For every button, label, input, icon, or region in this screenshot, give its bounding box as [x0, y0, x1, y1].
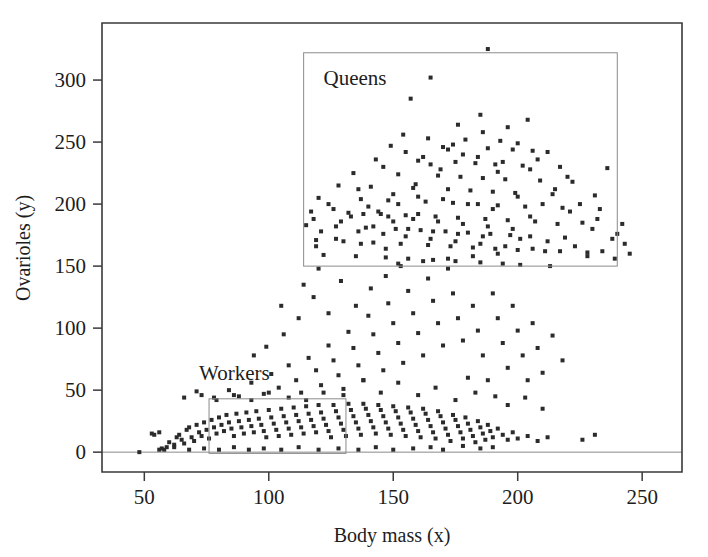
data-point [461, 339, 465, 343]
data-point [456, 316, 460, 320]
data-point [391, 404, 395, 408]
data-point [386, 301, 390, 305]
data-point [511, 227, 515, 231]
data-point [356, 427, 360, 431]
data-point [476, 329, 480, 333]
data-point [503, 244, 507, 248]
x-tick-label: 200 [502, 485, 534, 509]
data-point [506, 125, 510, 129]
data-point [506, 403, 510, 407]
data-point [526, 378, 530, 382]
data-point [516, 195, 520, 199]
data-point [406, 406, 410, 410]
data-point [426, 418, 430, 422]
data-point [404, 150, 408, 154]
data-point [598, 207, 602, 211]
data-point [568, 210, 572, 214]
data-point [205, 428, 209, 432]
data-point [180, 438, 184, 442]
data-point [356, 229, 360, 233]
data-point [269, 372, 273, 376]
data-point [309, 210, 313, 214]
data-point [361, 378, 365, 382]
data-point [506, 218, 510, 222]
data-point [501, 262, 505, 266]
data-point [491, 445, 495, 449]
data-point [466, 202, 470, 206]
data-point [449, 439, 453, 443]
data-point [312, 217, 316, 221]
data-point [486, 146, 490, 150]
data-point [528, 167, 532, 171]
data-point [473, 440, 477, 444]
data-point [411, 311, 415, 315]
data-point [431, 299, 435, 303]
data-point [356, 187, 360, 191]
data-point [478, 425, 482, 429]
plot-canvas: 50100150200250 050100150200250300 Body m… [0, 0, 708, 557]
data-point [182, 396, 186, 400]
data-point [165, 445, 169, 449]
data-point [284, 420, 288, 424]
data-point [486, 423, 490, 427]
data-point [287, 427, 291, 431]
data-point [314, 430, 318, 434]
data-point [404, 434, 408, 438]
data-point [282, 332, 286, 336]
data-point [463, 138, 467, 142]
data-point [327, 343, 331, 347]
data-point [449, 244, 453, 248]
data-point [277, 434, 281, 438]
data-point [528, 234, 532, 238]
y-tick-label: 100 [55, 316, 87, 340]
data-point [451, 143, 455, 147]
data-point [327, 311, 331, 315]
data-point [237, 394, 241, 398]
data-point [237, 419, 241, 423]
data-point [195, 389, 199, 393]
data-point [506, 366, 510, 370]
data-point [421, 155, 425, 159]
data-point [197, 430, 201, 434]
data-point [279, 448, 283, 452]
data-point [531, 149, 535, 153]
data-point [451, 201, 455, 205]
data-point [421, 407, 425, 411]
data-point [486, 224, 490, 228]
data-point [187, 425, 191, 429]
data-point [406, 289, 410, 293]
data-point [272, 422, 276, 426]
data-point [516, 329, 520, 333]
data-point [538, 179, 542, 183]
data-point [239, 425, 243, 429]
data-point [481, 432, 485, 436]
data-point [341, 239, 345, 243]
data-point [369, 286, 373, 290]
data-point [446, 433, 450, 437]
data-point [565, 175, 569, 179]
data-point [336, 183, 340, 187]
data-point [476, 419, 480, 423]
data-point [232, 434, 236, 438]
data-point [561, 358, 565, 362]
data-point [289, 433, 293, 437]
y-tick-label: 0 [76, 440, 87, 464]
data-point [346, 402, 350, 406]
data-point [526, 434, 530, 438]
data-point [264, 345, 268, 349]
data-point [247, 418, 251, 422]
data-point [391, 192, 395, 196]
data-point [536, 346, 540, 350]
data-point [605, 166, 609, 170]
data-point [354, 420, 358, 424]
data-point [446, 187, 450, 191]
data-point [351, 414, 355, 418]
data-point [369, 419, 373, 423]
data-point [399, 422, 403, 426]
data-point [297, 445, 301, 449]
data-point [317, 267, 321, 271]
data-point [354, 304, 358, 308]
data-point [558, 165, 562, 169]
data-point [195, 423, 199, 427]
data-point [513, 191, 517, 195]
